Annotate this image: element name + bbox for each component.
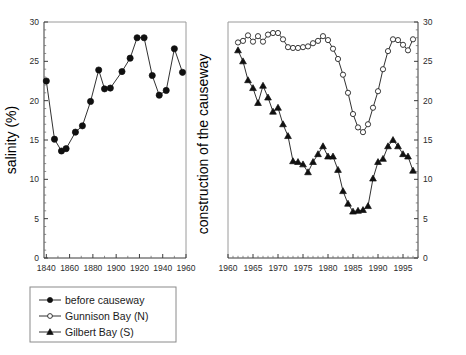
left-x-tick-label: 1960	[177, 263, 196, 273]
right-x-tick-label: 1960	[219, 263, 238, 273]
data-point	[305, 169, 312, 175]
data-point	[127, 55, 133, 61]
data-point	[119, 68, 125, 74]
right-y-tick-label: 10	[423, 174, 433, 184]
data-point	[310, 159, 317, 165]
data-point	[310, 41, 315, 46]
data-point	[43, 78, 49, 84]
legend-item[interactable]: Gunnison Bay (N)	[39, 310, 148, 322]
left-y-tick-label: 10	[30, 174, 40, 184]
data-point	[245, 77, 252, 83]
right-panel-frame	[228, 22, 418, 258]
data-point	[280, 37, 285, 42]
data-point	[260, 82, 267, 88]
data-point	[101, 86, 107, 92]
data-point	[270, 30, 275, 35]
data-point	[400, 151, 407, 157]
data-point	[163, 87, 169, 93]
data-point	[285, 45, 290, 50]
left-y-axis-title: salinity (%)	[3, 106, 19, 174]
data-point	[380, 155, 387, 161]
data-point	[320, 143, 327, 149]
data-point	[315, 38, 320, 43]
data-point	[355, 125, 360, 130]
right-x-tick-label: 1970	[269, 263, 288, 273]
data-point	[285, 133, 292, 139]
right-panel: 0510152025301960196519701975198019851990…	[219, 17, 433, 273]
data-point	[390, 137, 397, 143]
left-panel-frame	[44, 22, 186, 258]
data-point	[365, 122, 370, 127]
right-x-tick-label: 1985	[344, 263, 363, 273]
left-x-tick-label: 1900	[107, 263, 126, 273]
right-x-tick-label: 1965	[244, 263, 263, 273]
data-point	[141, 35, 147, 41]
data-point	[385, 49, 390, 54]
data-point	[370, 105, 375, 110]
left-y-tick-label: 5	[34, 214, 39, 224]
right-y-tick-label: 5	[423, 214, 428, 224]
data-point	[380, 67, 385, 72]
salinity-chart: 0510152025301840186018801900192019401960…	[0, 0, 466, 355]
data-point	[370, 175, 377, 181]
data-point	[260, 39, 265, 44]
data-point	[245, 33, 250, 38]
data-point	[350, 111, 355, 116]
legend-marker-filled-triangle-icon	[47, 329, 53, 335]
data-point	[335, 56, 340, 61]
left-x-tick-label: 1840	[37, 263, 56, 273]
legend-item-label: Gilbert Bay (S)	[65, 326, 134, 338]
right-y-tick-label: 20	[423, 96, 433, 106]
left-x-tick-label: 1880	[83, 263, 102, 273]
data-point	[300, 45, 305, 50]
data-point	[265, 94, 272, 100]
data-point	[315, 151, 322, 157]
data-point	[345, 90, 350, 95]
data-point	[171, 46, 177, 52]
data-point	[305, 44, 310, 49]
data-point	[240, 38, 245, 43]
data-point	[330, 153, 337, 159]
left-panel: 0510152025301840186018801900192019401960	[30, 17, 196, 273]
data-point	[235, 47, 242, 53]
data-point	[63, 146, 69, 152]
legend-item-label: Gunnison Bay (N)	[65, 310, 148, 322]
data-point	[265, 32, 270, 37]
data-point	[400, 42, 405, 47]
legend: before causewayGunnison Bay (N)Gilbert B…	[30, 287, 176, 342]
data-point	[325, 37, 330, 42]
right-y-tick-label: 30	[423, 17, 433, 27]
data-point	[107, 85, 113, 91]
left-y-tick-label: 15	[30, 135, 40, 145]
legend-item[interactable]: before causeway	[39, 294, 145, 306]
left-x-tick-label: 1920	[130, 263, 149, 273]
data-point	[405, 48, 410, 53]
before-causeway-markers	[43, 35, 185, 154]
legend-item-label: before causeway	[65, 294, 145, 306]
data-point	[134, 35, 140, 41]
data-point	[255, 100, 262, 106]
legend-marker-filled-circle-icon	[47, 297, 52, 302]
data-point	[87, 98, 93, 104]
data-point	[365, 203, 372, 209]
data-point	[360, 130, 365, 135]
gilbert-bay-line	[238, 50, 413, 211]
data-point	[320, 34, 325, 39]
right-x-tick-label: 1995	[394, 263, 413, 273]
right-y-tick-label: 0	[423, 253, 428, 263]
data-point	[149, 72, 155, 78]
data-point	[410, 37, 415, 42]
data-point	[290, 45, 295, 50]
data-point	[240, 58, 247, 64]
left-y-tick-label: 30	[30, 17, 40, 27]
data-point	[79, 123, 85, 129]
data-point	[72, 129, 78, 135]
data-point	[375, 89, 380, 94]
data-point	[235, 40, 240, 45]
left-y-tick-label: 0	[34, 253, 39, 263]
legend-item[interactable]: Gilbert Bay (S)	[39, 326, 134, 338]
left-x-tick-label: 1860	[60, 263, 79, 273]
data-point	[340, 188, 347, 194]
data-point	[345, 200, 352, 206]
data-point	[255, 34, 260, 39]
